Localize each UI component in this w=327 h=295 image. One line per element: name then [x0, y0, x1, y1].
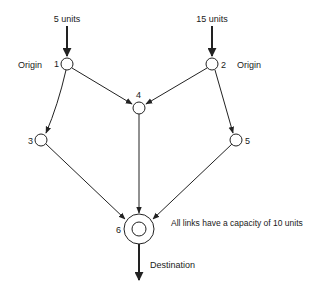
node-2 — [206, 58, 218, 70]
edge-5-6 — [153, 144, 232, 219]
edge-2-5 — [215, 70, 233, 133]
node-label-3: 3 — [28, 136, 33, 146]
node-4 — [133, 102, 145, 114]
edge-1-3 — [46, 70, 66, 133]
destination-label: Destination — [150, 260, 195, 270]
edge-1-4 — [72, 68, 132, 104]
node-3 — [35, 134, 47, 146]
node-label-2: 2 — [221, 60, 226, 70]
node-label-4: 4 — [136, 90, 141, 100]
supply-label-1: 5 units — [54, 14, 81, 24]
origin-label-2: Origin — [237, 60, 261, 70]
node-label-6: 6 — [116, 225, 121, 235]
supply-label-2: 15 units — [196, 14, 228, 24]
node-1 — [61, 58, 73, 70]
network-diagram: 5 units 15 units Origin Origin 1 2 3 4 5… — [0, 0, 327, 295]
edge-3-6 — [46, 144, 125, 219]
edge-2-4 — [146, 68, 207, 104]
origin-label-1: Origin — [18, 60, 42, 70]
node-5 — [230, 134, 242, 146]
node-label-5: 5 — [245, 136, 250, 146]
capacity-note: All links have a capacity of 10 units — [171, 218, 303, 228]
node-label-1: 1 — [54, 59, 59, 69]
node-6-inner — [132, 222, 146, 236]
